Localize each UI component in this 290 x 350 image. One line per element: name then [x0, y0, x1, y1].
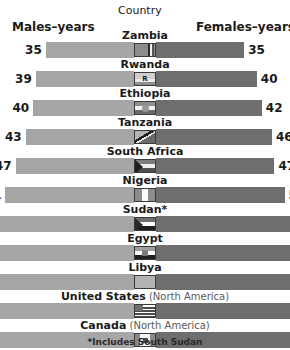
- tanzania-flag: [134, 130, 156, 144]
- libya-flag: [134, 275, 156, 289]
- country-column-header: Country: [118, 4, 162, 17]
- female-bar: [156, 303, 290, 319]
- row-bars: 7478: [0, 274, 290, 290]
- country-name: South Africa: [107, 145, 184, 158]
- rwanda-flag: R: [134, 72, 156, 86]
- row-bars: 4042: [0, 100, 290, 116]
- male-value-label: 35: [2, 42, 42, 58]
- row-country-label: Rwanda: [0, 58, 290, 71]
- male-bar: [0, 274, 134, 290]
- male-bar: [16, 158, 134, 174]
- row-bars: 3535: [0, 42, 290, 58]
- row-country-label: Nigeria: [0, 174, 290, 187]
- female-value-label: 40: [261, 71, 290, 87]
- usa-flag: [134, 304, 156, 318]
- row-country-label: Canada (North America): [0, 319, 290, 332]
- nigeria-flag: [134, 188, 156, 202]
- country-name: Rwanda: [120, 58, 169, 71]
- country-name: United States: [61, 290, 146, 303]
- male-bar: [0, 303, 134, 319]
- ethiopia-flag: [134, 101, 156, 115]
- country-region: (North America): [146, 291, 229, 302]
- male-value-label: 39: [0, 71, 32, 87]
- male-bar: [26, 129, 134, 145]
- female-value-label: 51: [289, 187, 290, 203]
- chart-row: Tanzania4346: [0, 116, 290, 145]
- row-bars: 5151: [0, 187, 290, 203]
- female-bar: [156, 245, 290, 261]
- row-country-label: Zambia: [0, 29, 290, 42]
- female-bar: [156, 158, 274, 174]
- chart-row: United States (North America)7480: [0, 290, 290, 319]
- chart-row: Libya7478: [0, 261, 290, 290]
- male-value-label: 43: [0, 129, 22, 145]
- male-bar: [36, 71, 134, 87]
- chart-row: Rwanda39R40: [0, 58, 290, 87]
- female-bar: [156, 129, 272, 145]
- zambia-flag: [134, 43, 156, 57]
- row-country-label: Libya: [0, 261, 290, 274]
- female-bar: [156, 274, 290, 290]
- country-name: Libya: [128, 261, 161, 274]
- country-name: Tanzania: [118, 116, 172, 129]
- country-name: Nigeria: [123, 174, 168, 187]
- chart-row: Sudan*5759: [0, 203, 290, 232]
- male-bar: [33, 100, 134, 116]
- female-value-label: 47: [278, 158, 290, 174]
- male-bar: [5, 187, 134, 203]
- male-value-label: 40: [0, 100, 29, 116]
- chart-row: Egypt6873: [0, 232, 290, 261]
- female-bar: [156, 187, 285, 203]
- row-country-label: Egypt: [0, 232, 290, 245]
- row-country-label: Sudan*: [0, 203, 290, 216]
- sudan-flag: [134, 217, 156, 231]
- country-name: Egypt: [127, 232, 163, 245]
- country-region: (North America): [126, 320, 209, 331]
- female-bar: [156, 71, 257, 87]
- egypt-flag: [134, 246, 156, 260]
- male-value-label: 47: [0, 158, 12, 174]
- country-name: Zambia: [122, 29, 168, 42]
- chart-footnote: *Includes South Sudan: [0, 337, 290, 347]
- country-name: Ethiopia: [120, 87, 171, 100]
- female-bar: [156, 216, 290, 232]
- country-name: Canada: [80, 319, 126, 332]
- female-bar: [156, 42, 244, 58]
- male-bar: [0, 245, 134, 261]
- chart-row: Nigeria5151: [0, 174, 290, 203]
- row-country-label: South Africa: [0, 145, 290, 158]
- south-africa-flag: [134, 159, 156, 173]
- row-bars: 7480: [0, 303, 290, 319]
- male-value-label: 51: [0, 187, 1, 203]
- chart-row: South Africa4747: [0, 145, 290, 174]
- female-bar: [156, 100, 262, 116]
- row-bars: 4747: [0, 158, 290, 174]
- row-country-label: Ethiopia: [0, 87, 290, 100]
- country-name: Sudan*: [123, 203, 168, 216]
- row-bars: 39R40: [0, 71, 290, 87]
- female-value-label: 35: [248, 42, 288, 58]
- life-expectancy-diverging-bar-chart: Country Males–years Females–years Zambia…: [0, 0, 290, 350]
- male-bar: [0, 216, 134, 232]
- row-bars: 4346: [0, 129, 290, 145]
- male-bar: [46, 42, 134, 58]
- chart-row: Zambia3535: [0, 29, 290, 58]
- female-value-label: 46: [276, 129, 290, 145]
- row-bars: 6873: [0, 245, 290, 261]
- chart-row: Ethiopia4042: [0, 87, 290, 116]
- row-country-label: Tanzania: [0, 116, 290, 129]
- female-value-label: 42: [266, 100, 290, 116]
- row-country-label: United States (North America): [0, 290, 290, 303]
- row-bars: 5759: [0, 216, 290, 232]
